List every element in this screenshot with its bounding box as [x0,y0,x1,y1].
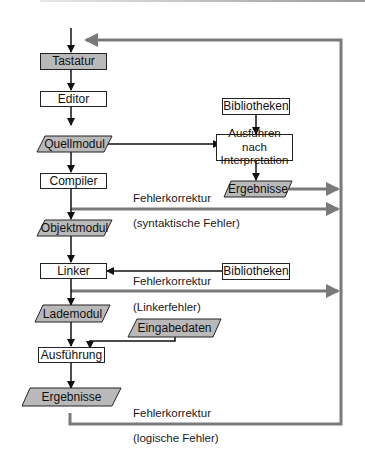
interpretation-line2: Interpretation [221,154,289,168]
node-linker: Linker [40,263,107,279]
label-fehlerkorrektur-linker: Fehlerkorrektur [133,276,211,288]
label-fehlerkorrektur-compiler: Fehlerkorrektur [133,193,211,205]
label-fehlerkorrektur-logisch: Fehlerkorrektur [133,408,211,420]
node-ausfuehrung: Ausführung [38,347,105,363]
node-objektmodul: Objektmodul [37,220,112,236]
node-eingabedaten: Eingabedaten [128,319,221,337]
label-logische-fehler: (logische Fehler) [133,433,219,445]
node-editor: Editor [40,91,107,107]
node-lademodul: Lademodul [35,305,110,322]
node-bibliotheken-top: Bibliotheken [222,98,290,115]
node-compiler: Compiler [40,173,107,189]
node-bibliotheken-linker: Bibliotheken [222,263,290,280]
label-linkerfehler: (Linkerfehler) [133,302,201,314]
node-ergebnisse-main: Ergebnisse [22,388,121,406]
node-interpretation: Ausführen nach Interpretation [216,134,293,161]
label-syntaktische-fehler: (syntaktische Fehler) [133,218,240,230]
node-tastatur: Tastatur [40,53,107,70]
node-quellmodul: Quellmodul [37,136,112,152]
node-ergebnisse-interp: Ergebnisse [224,181,292,197]
interpretation-line1: Ausführen nach [217,127,292,155]
